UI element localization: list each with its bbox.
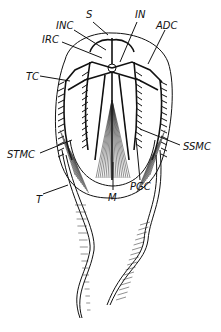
label-irc: IRC — [42, 34, 59, 45]
diagram: S IN INC ADC IRC TC STMC SSMC PGC M T — [0, 0, 221, 332]
hatch-line — [116, 297, 126, 300]
hatch-line — [146, 139, 161, 181]
hatch-line — [118, 292, 128, 295]
tentacle-right — [107, 150, 161, 305]
label-inc: INC — [56, 20, 73, 31]
hatch-line — [69, 148, 84, 187]
label-tc: TC — [26, 71, 39, 82]
hatch-line — [82, 96, 88, 100]
hatch-line — [58, 148, 64, 151]
hatch-line — [58, 94, 64, 97]
hatch-line — [136, 138, 142, 142]
label-adc: ADC — [155, 20, 178, 31]
tentacle-canal-left — [68, 72, 112, 90]
hatch-line — [161, 142, 167, 145]
hatch-line — [161, 118, 167, 121]
label-t: T — [36, 194, 43, 205]
aboral-arc-right — [112, 40, 134, 52]
label-stmc: STMC — [7, 149, 35, 160]
hatch-line — [58, 100, 64, 103]
tentacle-hatching — [75, 205, 150, 310]
hatch-line — [161, 124, 167, 127]
hatch-line — [58, 88, 64, 91]
hatch-line — [161, 148, 167, 151]
comb-row-left-inner — [86, 62, 90, 150]
hatch-line — [134, 242, 144, 245]
hatch-line — [58, 118, 64, 121]
hatch-line — [161, 82, 167, 85]
hatch-line — [161, 88, 167, 91]
comb-row-right-inner — [134, 62, 137, 150]
hatch-line — [58, 112, 64, 115]
hatch-line — [58, 124, 64, 127]
hatch-line — [129, 257, 139, 260]
hatch-line — [112, 100, 128, 178]
hatch-line — [96, 100, 112, 178]
hatch-line — [122, 277, 132, 280]
hatch-line — [68, 145, 83, 185]
hatch-line — [71, 151, 86, 189]
label-pgc: PGC — [130, 181, 151, 192]
hatch-line — [143, 145, 158, 185]
label-in: IN — [135, 9, 146, 20]
hatch-line — [126, 267, 136, 270]
label-ssmc: SSMC — [183, 141, 211, 152]
hatch-line — [138, 227, 148, 230]
hatch-line — [82, 72, 88, 76]
label-m: M — [108, 192, 117, 203]
hatch-line — [132, 247, 142, 250]
hatch-line — [82, 126, 88, 130]
hatch-line — [136, 72, 142, 76]
hatch-line — [136, 132, 142, 136]
hatch-line — [119, 287, 129, 290]
hatch-line — [140, 222, 150, 225]
label-s: S — [86, 9, 93, 20]
hatch-line — [58, 106, 64, 109]
